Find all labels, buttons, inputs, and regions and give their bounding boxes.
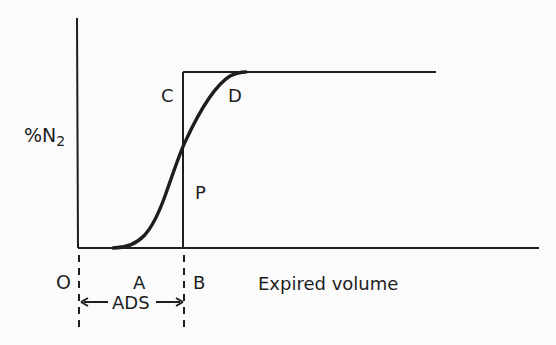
label-d: D bbox=[228, 85, 242, 106]
x-axis-label: Expired volume bbox=[258, 273, 398, 294]
label-c: C bbox=[161, 85, 174, 106]
single-breath-nitrogen-diagram: %N2 C D P O A B ADS Expired volume bbox=[0, 0, 556, 345]
label-a: A bbox=[133, 272, 146, 293]
label-b: B bbox=[193, 272, 205, 293]
label-origin: O bbox=[56, 271, 71, 293]
y-axis-label: %N2 bbox=[24, 124, 65, 149]
nitrogen-washout-curve bbox=[113, 72, 246, 248]
label-p: P bbox=[195, 182, 206, 203]
y-axis bbox=[77, 18, 78, 248]
label-ads: ADS bbox=[112, 292, 150, 313]
